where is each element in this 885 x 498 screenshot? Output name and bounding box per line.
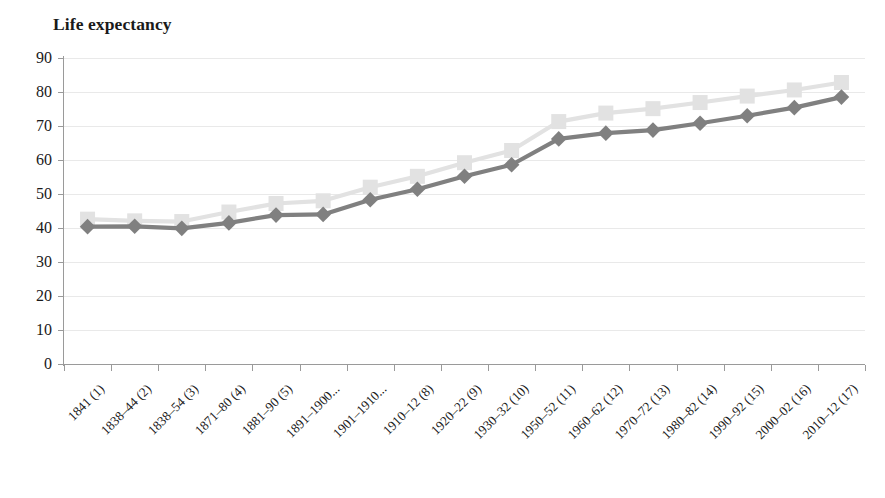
data-point-marker — [692, 115, 708, 131]
data-point-marker — [645, 101, 660, 116]
data-point-marker — [598, 125, 614, 141]
life-expectancy-chart: Life expectancy 9080706050403020100 1841… — [0, 0, 885, 498]
data-point-marker — [739, 108, 755, 124]
data-point-marker — [693, 95, 708, 110]
series-line — [88, 82, 842, 221]
data-point-marker — [787, 82, 802, 97]
data-point-marker — [457, 155, 472, 170]
data-point-marker — [504, 143, 519, 158]
data-point-marker — [315, 207, 331, 223]
data-point-marker — [316, 193, 331, 208]
data-point-marker — [787, 100, 803, 116]
data-point-marker — [834, 75, 849, 90]
data-point-marker — [504, 157, 520, 173]
data-point-marker — [598, 106, 613, 121]
data-point-marker — [551, 114, 566, 129]
data-point-marker — [457, 169, 473, 185]
series-plot — [0, 0, 885, 498]
data-point-marker — [740, 89, 755, 104]
data-point-marker — [834, 89, 850, 105]
data-point-marker — [645, 122, 661, 138]
series-group-upper-series — [80, 75, 849, 229]
data-point-marker — [551, 131, 567, 147]
